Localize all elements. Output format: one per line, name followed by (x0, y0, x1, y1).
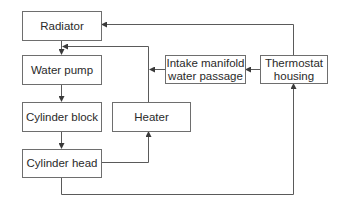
radiator-label: Radiator (40, 20, 83, 33)
thermostat-to-radiator-line (102, 25, 294, 56)
radiator-box: Radiator (22, 11, 102, 41)
cylinder-block-box: Cylinder block (22, 102, 102, 132)
intake-manifold-box: Intake manifold water passage (165, 55, 246, 84)
heater-box: Heater (112, 102, 191, 132)
heater-label: Heater (134, 111, 169, 124)
thermostat-housing-label: Thermostat housing (265, 57, 323, 83)
water-pump-box: Water pump (22, 55, 102, 85)
water-pump-label: Water pump (31, 64, 93, 77)
cylinder-head-box: Cylinder head (22, 149, 102, 178)
cylinder-head-label: Cylinder head (27, 157, 98, 170)
intake-manifold-label: Intake manifold water passage (167, 57, 245, 83)
cooling-system-diagram: Radiator Water pump Cylinder block Cylin… (0, 0, 343, 205)
cylinder-block-label: Cylinder block (26, 111, 98, 124)
thermostat-housing-box: Thermostat housing (260, 55, 328, 84)
head-to-heater-line (101, 132, 149, 163)
